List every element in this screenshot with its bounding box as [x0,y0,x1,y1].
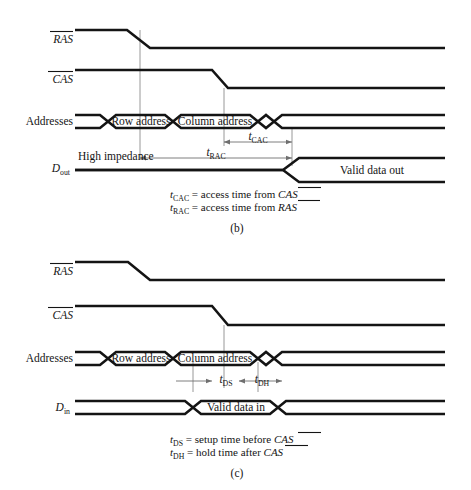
bus-value-row-address-b: Row address [111,115,171,127]
caption-c: tDS = setup time before CAS tDH = hold t… [170,433,321,461]
signal-label-ras-b: RAS [50,32,73,46]
signal-label-addresses-c: Addresses [26,352,74,364]
interval-label-tds-c: tDS [219,373,232,388]
signal-label-cas-c: CAS [48,308,73,322]
state-label-high-impedance-b: High impedance [78,150,154,163]
waveform-cas-b [75,70,445,88]
interval-label-trac-b: tRAC [206,146,225,161]
caption-b: tCAC = access time from CAS tRAC = acces… [170,188,321,216]
interval-label-tcac-b: tCAC [248,130,267,145]
signal-label-ras-b-text: RAS [52,33,73,45]
signal-label-din-c: Din [55,401,70,416]
waveform-ras-c [75,262,445,280]
bus-value-row-address-c: Row address [111,352,171,364]
panel-c: RAS CAS Addresses Row address Column add… [26,262,445,480]
signal-label-ras-c-text: RAS [52,265,73,277]
timing-figure: RAS CAS Addresses Row address Column add… [0,0,471,490]
signal-label-ras-c: RAS [50,264,73,278]
panel-label-b: (b) [230,222,244,235]
signal-label-cas-c-text: CAS [53,309,74,321]
signal-label-dout-b: Dout [51,162,71,177]
timing-diagram-svg: RAS CAS Addresses Row address Column add… [0,0,471,490]
caption-line-tdh-c: tDH = hold time after CAS [170,446,284,461]
signal-label-addresses-b: Addresses [26,115,74,127]
data-label-valid-data-in-c: Valid data in [207,401,265,413]
waveform-cas-c [75,306,445,325]
bus-value-column-address-b: Column address [178,115,253,127]
bus-value-column-address-c: Column address [178,352,253,364]
panel-b: RAS CAS Addresses Row address Column add… [26,30,445,235]
data-label-valid-data-out-b: Valid data out [340,164,405,176]
caption-line-trac-b: tRAC = access time from RAS [170,201,298,216]
waveform-ras-b [75,30,445,48]
interval-label-tdh-c: tDH [255,373,270,388]
signal-label-cas-b: CAS [48,72,73,86]
signal-label-cas-b-text: CAS [53,73,74,85]
panel-label-c: (c) [231,467,244,480]
